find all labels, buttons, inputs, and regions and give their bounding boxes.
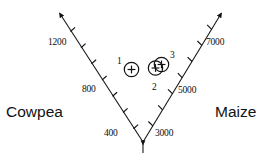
maize-tick [168, 89, 172, 93]
data-point-3-marker [154, 57, 168, 71]
maize-tick [178, 73, 182, 77]
cowpea-tick [92, 60, 97, 64]
crop-label-maize: Maize [215, 104, 256, 120]
cowpea-axis [60, 13, 144, 142]
crop-label-cowpea: Cowpea [6, 104, 63, 120]
cowpea-tick [102, 76, 107, 80]
cowpea-tick [71, 27, 76, 31]
cowpea-tick [81, 44, 86, 48]
cowpea-tick [134, 125, 139, 129]
cowpea-axis-ticks [71, 27, 139, 128]
maize-tick [197, 41, 201, 45]
maize-tick-label-7000: 7000 [206, 38, 224, 48]
vertex-wedge [141, 140, 146, 145]
cowpea-tick-label-800: 800 [82, 85, 96, 95]
cowpea-axis-line [60, 13, 144, 142]
maize-tick [148, 122, 152, 126]
cowpea-tick [123, 108, 128, 112]
data-point-1-marker [124, 62, 138, 76]
maize-tick-label-5000: 5000 [178, 86, 196, 96]
plot-canvas [0, 0, 271, 162]
v-axis-plot-figure: 1200 800 400 3000 5000 7000 1 2 3 Cowpea… [0, 0, 271, 162]
data-point-2-label: 2 [152, 83, 157, 93]
axis-vertex [141, 140, 146, 153]
maize-tick [188, 57, 192, 61]
data-point-1-label: 1 [117, 57, 122, 67]
cowpea-tick-label-1200: 1200 [48, 38, 66, 48]
data-point-3-label: 3 [170, 51, 175, 61]
maize-tick [158, 105, 162, 109]
maize-tick-label-3000: 3000 [155, 129, 173, 139]
cowpea-tick-label-400: 400 [104, 129, 118, 139]
maize-tick [207, 25, 211, 29]
cowpea-tick [113, 92, 118, 96]
maize-axis [143, 13, 222, 142]
